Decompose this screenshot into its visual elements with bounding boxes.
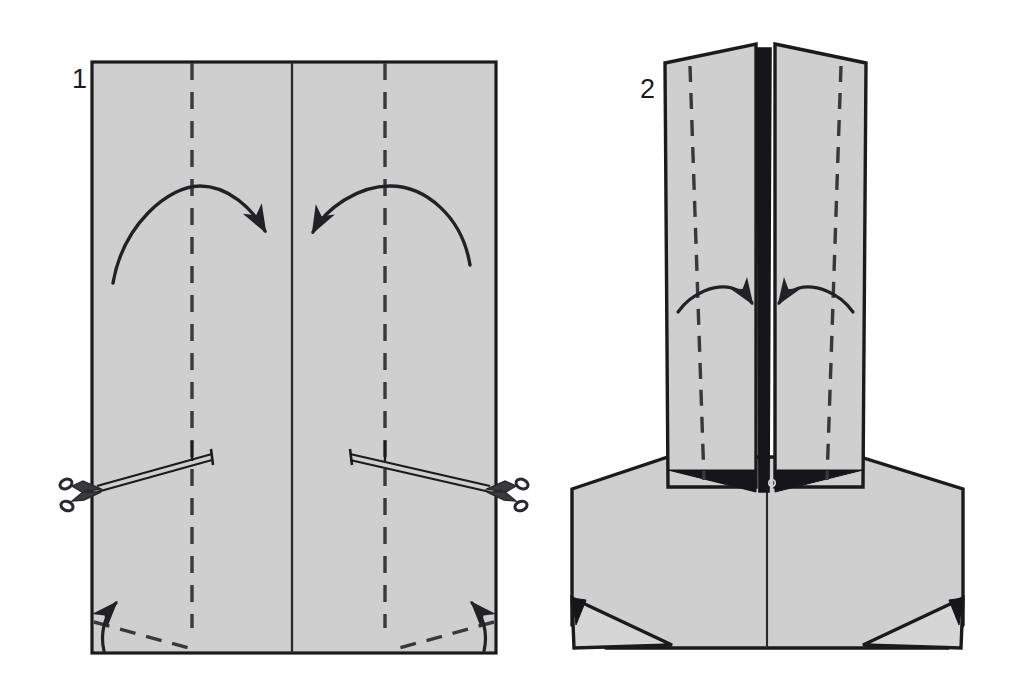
step-1-number: 1 xyxy=(72,64,87,94)
scissors-left-handle-upper xyxy=(58,477,73,490)
step-2-group: 2 xyxy=(572,44,963,648)
scissors-right-pivot xyxy=(498,489,502,493)
diagram-page: 1 xyxy=(0,0,1020,698)
origami-instruction-figure: 1 xyxy=(0,0,1020,698)
step-2-number: 2 xyxy=(640,74,655,104)
step-1-group: 1 xyxy=(58,62,529,653)
scissors-left-pivot xyxy=(86,489,90,493)
paper-sheet-step-1 xyxy=(92,62,496,653)
scissors-right-handle-upper xyxy=(514,477,529,490)
center-spine xyxy=(757,48,771,492)
left-upright-panel xyxy=(665,44,756,487)
right-upright-panel xyxy=(775,44,866,487)
